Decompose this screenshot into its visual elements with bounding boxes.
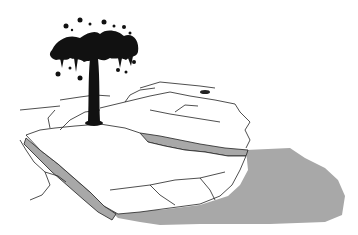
oil-gusher-map-illustration — [0, 0, 358, 235]
oil-gusher — [50, 18, 138, 127]
illustration — [0, 0, 358, 235]
small-lake — [200, 90, 210, 94]
